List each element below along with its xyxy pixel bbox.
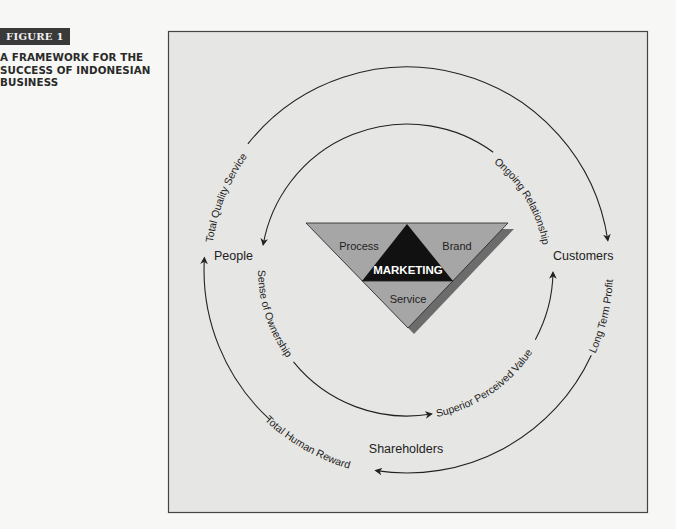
node-shareholders: Shareholders [369, 442, 443, 456]
node-people: People [214, 249, 253, 263]
core-label-brand: Brand [442, 240, 471, 252]
core-label-service: Service [390, 293, 427, 305]
framework-diagram: Total Quality Service Long Term Profit T… [0, 0, 676, 529]
node-customers: Customers [553, 249, 613, 263]
core-label-marketing: MARKETING [373, 264, 443, 276]
core-label-process: Process [339, 240, 379, 252]
